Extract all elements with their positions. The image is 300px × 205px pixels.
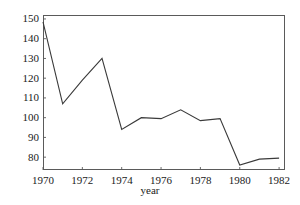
x-axis-tick-labels: 1970197219741976197819801982 <box>0 0 300 205</box>
line-chart: 8090100110120130140150 19701972197419761… <box>0 0 300 205</box>
x-axis-title: year <box>0 185 300 196</box>
